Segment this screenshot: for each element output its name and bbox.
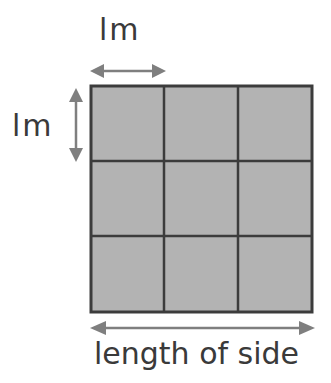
left-unit-label: lm: [12, 108, 54, 143]
bottom-arrow-icon: [90, 321, 315, 335]
top-arrow-icon: [90, 64, 166, 78]
grid-diagram: [0, 0, 331, 383]
square-grid: [91, 86, 312, 312]
side-length-label: length of side: [94, 336, 299, 371]
left-arrow-icon: [69, 88, 83, 162]
top-unit-label: lm: [99, 12, 141, 47]
